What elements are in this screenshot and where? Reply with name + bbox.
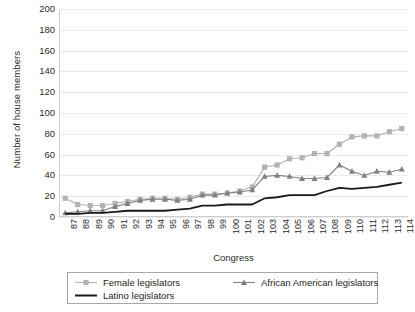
x-tick-113: 113 xyxy=(393,219,403,233)
x-tick-103: 103 xyxy=(268,219,278,234)
x-tick-101: 101 xyxy=(243,219,253,234)
y-tick-180: 180 xyxy=(3,24,55,35)
data-point xyxy=(299,155,304,160)
legend-item-female[interactable]: Female legislators xyxy=(74,277,180,288)
data-point xyxy=(63,196,68,201)
x-tick-110: 110 xyxy=(355,219,365,233)
legend-item-african-american[interactable]: African American legislators xyxy=(232,277,378,288)
data-point xyxy=(349,168,355,174)
data-point xyxy=(88,203,93,208)
data-point xyxy=(374,133,379,138)
data-point xyxy=(75,202,80,207)
x-tick-90: 90 xyxy=(106,219,116,229)
x-tick-89: 89 xyxy=(94,219,104,229)
x-tick-105: 105 xyxy=(293,219,303,234)
data-point xyxy=(337,142,342,147)
y-tick-100: 100 xyxy=(3,107,55,118)
x-tick-88: 88 xyxy=(81,219,91,229)
x-tick-108: 108 xyxy=(330,219,340,234)
data-point xyxy=(399,126,404,131)
legend-label-latino: Latino legislators xyxy=(103,290,174,301)
x-tick-111: 111 xyxy=(368,219,378,233)
legend-row-1: Female legislators African American legi… xyxy=(74,276,371,289)
x-tick-98: 98 xyxy=(206,219,216,229)
x-tick-112: 112 xyxy=(380,219,390,233)
data-point xyxy=(399,166,405,172)
x-tick-94: 94 xyxy=(156,219,166,229)
african-american-series-marker-icon xyxy=(232,277,256,288)
x-axis-title: Congress xyxy=(59,252,408,263)
x-tick-96: 96 xyxy=(181,219,191,229)
x-tick-95: 95 xyxy=(168,219,178,229)
x-tick-99: 99 xyxy=(218,219,228,229)
x-tick-93: 93 xyxy=(144,219,154,229)
data-point xyxy=(349,134,354,139)
x-tick-106: 106 xyxy=(306,219,316,234)
data-point xyxy=(262,164,267,169)
x-tick-87: 87 xyxy=(69,219,79,229)
legend-row-2: Latino legislators xyxy=(74,289,371,302)
data-point xyxy=(100,203,105,208)
x-tick-107: 107 xyxy=(318,219,328,234)
chart-legend: Female legislators African American legi… xyxy=(67,272,378,304)
series-1 xyxy=(63,126,405,208)
data-point xyxy=(287,156,292,161)
x-tick-102: 102 xyxy=(256,219,266,234)
data-point xyxy=(374,168,380,174)
female-series-marker-icon xyxy=(74,277,98,288)
legend-label-african-american: African American legislators xyxy=(261,277,378,288)
data-point xyxy=(336,162,342,168)
x-tick-104: 104 xyxy=(281,219,291,234)
y-tick-0: 0 xyxy=(3,211,55,222)
series-3 xyxy=(65,183,402,214)
data-point xyxy=(312,151,317,156)
latino-series-marker-icon xyxy=(74,290,98,301)
legend-item-latino[interactable]: Latino legislators xyxy=(74,290,174,301)
legend-label-female: Female legislators xyxy=(103,277,180,288)
y-tick-40: 40 xyxy=(3,169,55,180)
series-line xyxy=(65,183,402,214)
gridline-0 xyxy=(59,217,408,218)
y-tick-20: 20 xyxy=(3,190,55,201)
data-point xyxy=(274,172,280,178)
y-tick-160: 160 xyxy=(3,45,55,56)
y-tick-60: 60 xyxy=(3,149,55,160)
data-point xyxy=(324,151,329,156)
series-layer xyxy=(59,9,408,217)
x-tick-100: 100 xyxy=(231,219,241,234)
y-tick-80: 80 xyxy=(3,128,55,139)
plot-area xyxy=(59,9,408,217)
x-tick-91: 91 xyxy=(119,219,129,229)
x-tick-97: 97 xyxy=(193,219,203,229)
series-line xyxy=(65,129,402,206)
y-tick-140: 140 xyxy=(3,65,55,76)
y-tick-120: 120 xyxy=(3,86,55,97)
y-axis-tick-labels: 200180160140120100806040200 xyxy=(0,9,55,217)
data-point xyxy=(275,162,280,167)
y-tick-200: 200 xyxy=(3,3,55,14)
data-point xyxy=(362,133,367,138)
x-axis-tick-labels: 8788899091929394959697989910010110210310… xyxy=(59,219,408,249)
x-tick-114: 114 xyxy=(405,219,415,233)
data-point xyxy=(387,129,392,134)
x-tick-109: 109 xyxy=(343,219,353,234)
x-tick-92: 92 xyxy=(131,219,141,229)
